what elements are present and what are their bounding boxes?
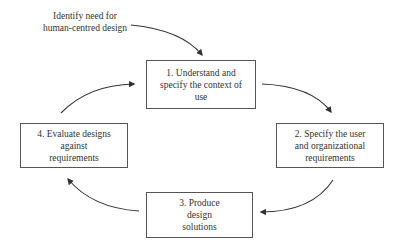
step-4-line: 4. Evaluate designs (37, 128, 111, 140)
step-4-evaluate-designs: 4. Evaluate designs against requirements (20, 123, 128, 168)
step-4-line: against (61, 140, 88, 152)
step-2-line: and organizational (295, 140, 365, 152)
step-1-understand-context: 1. Understand and specify the context of… (146, 60, 256, 109)
step-2-line: 2. Specify the user (295, 128, 366, 140)
arrow-entry-to-step-1 (131, 25, 202, 55)
step-1-line: use (195, 91, 208, 103)
arrow-step-4-to-step-1 (61, 84, 134, 113)
arrow-step-2-to-step-3 (261, 180, 333, 212)
step-4-line: requirements (49, 152, 99, 164)
step-3-line: design (187, 209, 212, 221)
step-2-specify-requirements: 2. Specify the user and organizational r… (276, 123, 384, 168)
step-3-line: 3. Produce (179, 197, 220, 209)
step-2-line: requirements (305, 152, 355, 164)
step-3-produce-solutions: 3. Produce design solutions (146, 192, 253, 238)
step-1-line: 1. Understand and (166, 67, 235, 79)
step-3-line: solutions (182, 221, 216, 233)
step-1-line: specify the context of (160, 79, 242, 91)
arrow-step-1-to-step-2 (262, 84, 331, 112)
arrow-step-3-to-step-4 (68, 179, 139, 211)
